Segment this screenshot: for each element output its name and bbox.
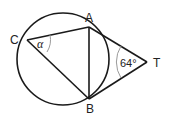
label-A: A	[85, 11, 93, 25]
angle-label-alpha: α	[37, 37, 44, 51]
angle-arc-C	[47, 35, 51, 52]
tangent-AT	[89, 27, 147, 62]
label-C: C	[10, 33, 19, 47]
label-B: B	[86, 102, 94, 116]
circle-tangent-diagram: A B C T α 64°	[0, 0, 175, 120]
label-T: T	[153, 56, 161, 70]
angle-label-64: 64°	[120, 57, 137, 69]
tangent-BT	[89, 62, 147, 99]
circle	[17, 13, 109, 105]
